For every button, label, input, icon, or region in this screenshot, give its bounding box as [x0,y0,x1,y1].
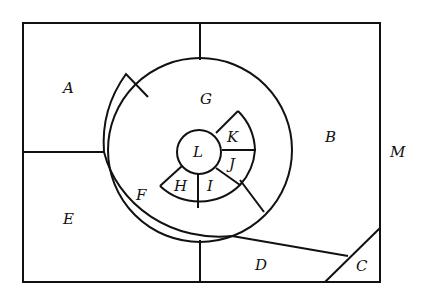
label-b: B [324,128,336,146]
label-m: M [389,143,406,161]
label-f: F [135,186,147,204]
label-l: L [192,143,203,161]
label-d: D [254,256,267,274]
label-j: J [226,155,236,173]
label-i: I [206,177,214,195]
divider-f-end [240,180,264,212]
divider-j-i [216,168,240,185]
divider-d-b [232,236,348,256]
label-e: E [62,210,74,228]
label-g: G [200,90,212,108]
label-a: A [61,79,74,97]
label-c: C [356,257,368,275]
region-diagram: A B C D E F G H I J K L M [0,0,424,295]
label-k: K [226,128,239,146]
label-h: H [173,177,188,195]
divider-c [325,228,380,282]
